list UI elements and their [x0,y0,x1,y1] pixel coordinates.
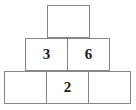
pyramid-cell-middle-2[interactable]: 6 [67,38,110,71]
pyramid-cell-middle-1[interactable]: 3 [25,38,68,71]
pyramid-cell-bottom-3[interactable] [88,71,131,104]
pyramid-canvas: 3 6 2 [0,0,136,110]
pyramid-middle-row: 3 6 [25,38,110,71]
pyramid-bottom-row: 2 [4,71,131,104]
number-pyramid: 3 6 2 [0,0,136,110]
pyramid-top-row [47,5,90,38]
pyramid-cell-top-1[interactable] [47,5,90,38]
pyramid-cell-bottom-1[interactable] [4,71,47,104]
pyramid-cell-bottom-2[interactable]: 2 [46,71,89,104]
